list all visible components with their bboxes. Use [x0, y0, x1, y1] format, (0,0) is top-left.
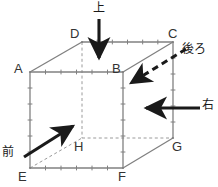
- vertex-label-H: H: [74, 140, 83, 153]
- cube-hidden-edges: [30, 42, 173, 168]
- direction-label-front: 前: [2, 146, 14, 158]
- cube-diagram-svg: [0, 0, 218, 187]
- cube-visible-edges: [30, 42, 173, 168]
- cube-edge-FG: [123, 138, 173, 168]
- direction-label-top: 上: [93, 2, 105, 14]
- vertex-label-D: D: [70, 27, 79, 40]
- direction-arrow-front: [24, 126, 73, 157]
- vertex-dot-D: [81, 41, 83, 43]
- vertex-dot-C: [172, 41, 174, 43]
- vertex-label-C: C: [168, 27, 177, 40]
- cube-edge-tick-marks: [28, 40, 176, 171]
- vertex-dot-A: [29, 71, 31, 73]
- cube-edge-AD: [30, 42, 82, 72]
- vertex-dot-B: [122, 71, 124, 73]
- cube-diagram-canvas: ABCDEFGH 上後ろ右前: [0, 0, 218, 187]
- vertex-label-G: G: [172, 140, 182, 153]
- cube-edge-BC: [123, 42, 173, 72]
- direction-arrow-back: [131, 49, 186, 83]
- direction-label-back: 後ろ: [182, 43, 206, 55]
- vertex-dot-E: [29, 167, 31, 169]
- vertex-label-A: A: [14, 62, 23, 75]
- vertex-label-F: F: [118, 170, 126, 183]
- vertex-label-B: B: [112, 62, 121, 75]
- vertex-label-E: E: [18, 170, 27, 183]
- direction-label-right: 右: [202, 99, 214, 111]
